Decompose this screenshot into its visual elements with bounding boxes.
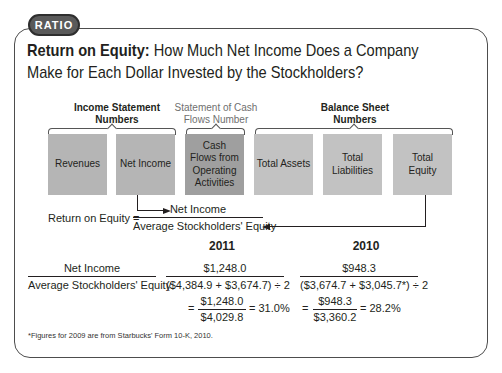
year-2010: 2010 — [316, 240, 416, 253]
title-line2: Make for Each Dollar Invested by the Sto… — [27, 62, 491, 84]
footnote: *Figures for 2009 are from Starbucks' Fo… — [28, 331, 213, 340]
box-label: Total Equity — [403, 152, 443, 177]
group-label-line1: Statement of Cash — [168, 102, 264, 114]
box-total-equity: Total Equity — [393, 134, 452, 195]
year-2011: 2011 — [172, 240, 272, 253]
calc-2011-bar — [166, 276, 284, 277]
box-label: Total Liabilities — [331, 152, 375, 177]
formula-numerator: Net Income — [133, 203, 263, 216]
box-total-assets: Total Assets — [254, 134, 313, 195]
calc-label-bar — [28, 276, 156, 277]
box-cash-flows-operating: Cash Flows from Operating Activities — [185, 134, 244, 195]
title-rest: How Much Net Income Does a Company — [150, 41, 419, 60]
group-label-line2: Numbers — [62, 114, 172, 126]
formula-fraction-bar — [133, 217, 263, 218]
box-label: Net Income — [120, 158, 171, 171]
callout-title: Return on Equity: How Much Net Income Do… — [27, 40, 491, 84]
box-net-income: Net Income — [116, 134, 175, 195]
group-cash-flows: Statement of Cash Flows Number — [168, 102, 264, 126]
group-label-line1: Income Statement — [62, 102, 172, 114]
box-revenues: Revenues — [48, 134, 107, 195]
calc-2011-result-bar — [198, 309, 246, 310]
formula-lhs: Return on Equity = — [48, 212, 139, 225]
group-income-statement: Income Statement Numbers — [62, 102, 172, 126]
calc-2011-denominator: ($4,384.9 + $3,674.7) ÷ 2 — [166, 279, 284, 292]
calc-2010-denominator: ($3,674.7 + $3,045.7*) ÷ 2 — [300, 279, 418, 292]
connector-equity-vertical — [425, 195, 426, 227]
calc-2010-result-numerator: $948.3 — [313, 295, 357, 308]
calc-2010-eq: = — [302, 302, 308, 315]
ratio-badge: RATIO — [28, 14, 80, 36]
calc-label-denominator: Average Stockholders' Equity — [28, 279, 156, 292]
calc-2011-result-denominator: $4,029.8 — [198, 311, 246, 324]
calc-2011-result-numerator: $1,248.0 — [198, 295, 246, 308]
calc-2011-numerator: $1,248.0 — [166, 262, 284, 275]
formula-denominator: Average Stockholders' Equity — [133, 220, 276, 233]
calc-2011-eq: = — [188, 302, 194, 315]
calc-2010-bar — [300, 276, 418, 277]
group-label-line1: Balance Sheet — [300, 102, 410, 114]
calc-2011-result: = 31.0% — [249, 302, 290, 315]
connector-equity-horizontal — [268, 226, 426, 227]
group-balance-sheet: Balance Sheet Numbers — [300, 102, 410, 126]
box-label: Revenues — [55, 158, 100, 171]
title-bold: Return on Equity: — [27, 41, 150, 60]
calc-label-numerator: Net Income — [28, 262, 156, 275]
calc-2010-numerator: $948.3 — [300, 262, 418, 275]
box-label: Cash Flows from Operating Activities — [189, 140, 241, 190]
box-label: Total Assets — [257, 158, 310, 171]
calc-2010-result-denominator: $3,360.2 — [313, 311, 357, 324]
calc-2010-result-bar — [313, 309, 357, 310]
calc-2010-result: = 28.2% — [360, 302, 401, 315]
box-total-liabilities: Total Liabilities — [323, 134, 382, 195]
